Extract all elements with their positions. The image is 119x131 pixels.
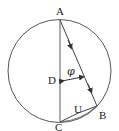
- label-u: U: [74, 103, 82, 115]
- circle-chord-diagram: A D B C U φ: [0, 0, 119, 131]
- arrow-ab-2: [88, 84, 91, 91]
- label-c: C: [55, 121, 62, 131]
- label-d: D: [48, 74, 56, 86]
- label-phi: φ: [67, 65, 75, 78]
- label-b: B: [99, 109, 106, 121]
- label-a: A: [56, 5, 64, 17]
- chord-ab: [60, 20, 97, 106]
